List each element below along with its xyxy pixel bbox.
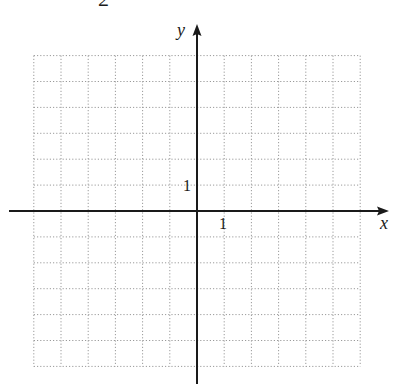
coordinate-plane: 2 y x 1 1 [0, 0, 395, 385]
x-tick-label: 1 [219, 215, 227, 232]
y-tick-label: 1 [183, 177, 191, 194]
x-axis-label: x [379, 213, 388, 233]
partial-header-text: 2 [98, 0, 109, 11]
y-axis-label: y [175, 20, 185, 40]
